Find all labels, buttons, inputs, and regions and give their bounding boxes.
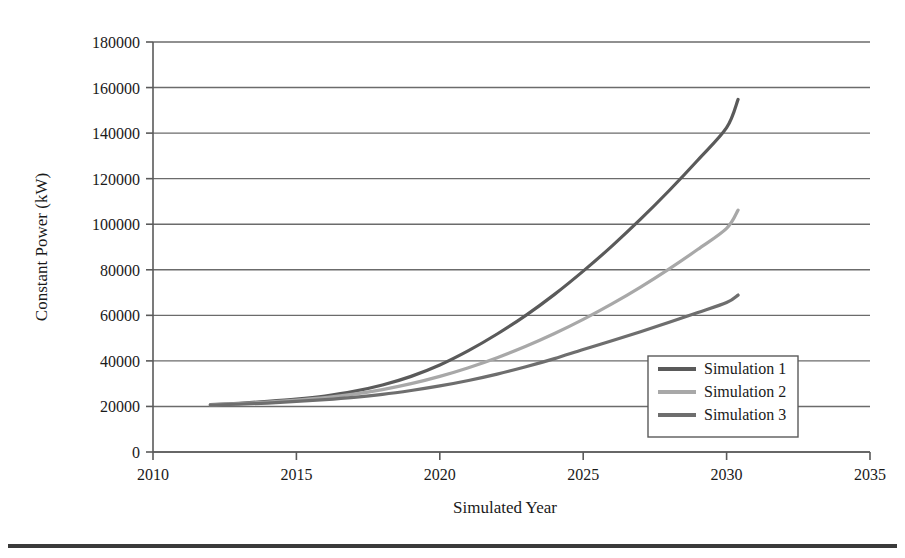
y-tick-label: 120000: [92, 171, 140, 188]
y-tick-label: 20000: [100, 398, 140, 415]
legend-label-2: Simulation 2: [704, 383, 786, 400]
figure-container: 0200004000060000800001000001200001400001…: [0, 0, 905, 558]
y-tick-label: 40000: [100, 353, 140, 370]
x-tick-label: 2020: [424, 466, 456, 483]
x-tick-label: 2010: [137, 466, 169, 483]
x-axis-title: Simulated Year: [453, 498, 557, 517]
y-tick-label: 180000: [92, 34, 140, 51]
y-tick-label: 100000: [92, 216, 140, 233]
legend-label-3: Simulation 3: [704, 406, 786, 423]
legend-items-group: Simulation 1Simulation 2Simulation 3: [658, 360, 786, 423]
x-tick-label: 2035: [854, 466, 886, 483]
y-tick-label: 160000: [92, 80, 140, 97]
y-axis-title: Constant Power (kW): [32, 173, 51, 321]
y-tick-label: 0: [132, 444, 140, 461]
y-tick-label: 60000: [100, 307, 140, 324]
x-tick-label: 2015: [280, 466, 312, 483]
y-tick-label: 140000: [92, 125, 140, 142]
x-tick-label: 2025: [567, 466, 599, 483]
chart-legend[interactable]: Simulation 1Simulation 2Simulation 3: [648, 356, 798, 437]
y-tick-label: 80000: [100, 262, 140, 279]
legend-label-1: Simulation 1: [704, 360, 786, 377]
line-chart: 0200004000060000800001000001200001400001…: [0, 0, 905, 558]
x-tick-label: 2030: [711, 466, 743, 483]
